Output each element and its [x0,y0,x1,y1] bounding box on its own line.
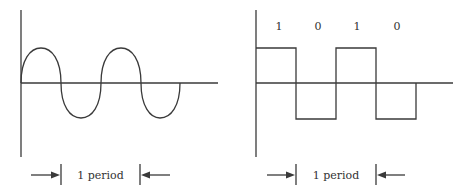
right-arrow-icon [286,172,295,179]
bit-labels: 1 0 1 0 [276,20,401,33]
left-arrow-icon [377,172,386,179]
bit-label: 0 [315,20,322,33]
bit-label: 1 [276,20,283,33]
analog-signal-graph [21,10,218,157]
bit-label: 1 [354,20,361,33]
diagram-canvas: 1 period 1 0 1 0 1 period [0,0,467,196]
left-arrow-icon [141,172,150,179]
digital-period-label: 1 period [313,169,360,182]
right-arrow-icon [51,172,60,179]
analog-period-label: 1 period [77,169,124,182]
bit-label: 0 [394,20,401,33]
